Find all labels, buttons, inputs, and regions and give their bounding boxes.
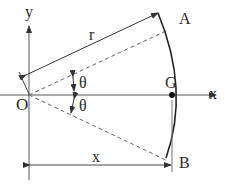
arc-centroid-diagram: y r A G x O θ θ x B: [0, 0, 229, 185]
y-axis-label: y: [25, 4, 33, 20]
x-axis-label: x: [209, 86, 217, 102]
dashed-line-oa: [29, 30, 168, 95]
origin-label: O: [16, 96, 28, 113]
angle-marker-upper: [73, 77, 74, 91]
radius-extension-tick: [19, 72, 29, 94]
radius-label: r: [89, 27, 94, 43]
angle-upper-label: θ: [79, 75, 87, 91]
angle-lower-label: θ: [79, 98, 87, 114]
centroid-point: [169, 92, 175, 98]
angle-marker-lower: [71, 99, 74, 113]
point-b-label: B: [179, 155, 190, 171]
diagram-graphics: [0, 0, 229, 185]
point-a-label: A: [179, 11, 191, 27]
centroid-label: G: [165, 75, 177, 91]
distance-x-label: x: [92, 149, 100, 165]
